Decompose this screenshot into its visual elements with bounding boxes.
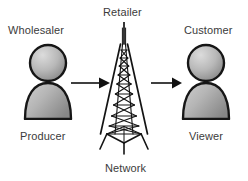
- person-icon-viewer: [178, 42, 234, 120]
- diagram-canvas: Wholesaler Retailer Customer Producer Ne…: [0, 0, 248, 181]
- arrow-network-to-viewer: [151, 76, 183, 90]
- arrow-producer-to-network: [71, 76, 111, 90]
- label-producer: Producer: [20, 130, 65, 142]
- label-retailer: Retailer: [103, 6, 142, 18]
- person-icon-producer: [20, 42, 76, 120]
- label-customer: Customer: [184, 24, 232, 36]
- label-wholesaler: Wholesaler: [8, 24, 64, 36]
- label-network: Network: [105, 162, 146, 174]
- label-viewer: Viewer: [189, 130, 223, 142]
